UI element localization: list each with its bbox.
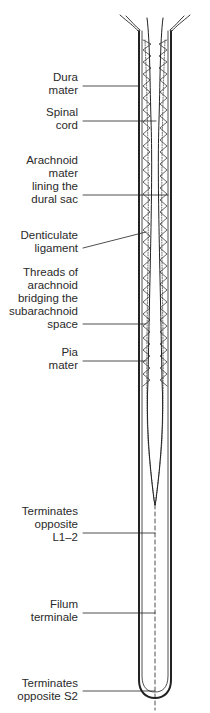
leader-denticulate xyxy=(83,232,146,248)
label-pia-mater: Pia mater xyxy=(49,346,78,372)
label-dura-mater: Dura mater xyxy=(49,71,78,97)
label-arachnoid-threads: Threads of arachnoid bridging the subara… xyxy=(9,266,78,331)
label-sac-termination: Terminates opposite S2 xyxy=(17,677,78,703)
label-cord-termination: Terminates opposite L1–2 xyxy=(22,505,78,544)
label-arachnoid-mater: Arachnoid mater lining the dural sac xyxy=(26,154,78,206)
label-filum-terminale: Filum terminale xyxy=(31,598,78,624)
label-spinal-cord: Spinal cord xyxy=(46,106,78,132)
label-denticulate-ligament: Denticulate ligament xyxy=(20,229,78,255)
